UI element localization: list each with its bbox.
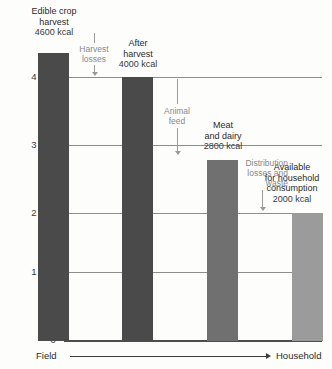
bar-value-edible-crop-harvest: 4600 kcal xyxy=(10,27,98,38)
annotation-line3: waste xyxy=(225,178,288,188)
bar-after-harvest xyxy=(122,77,153,341)
annotation-animal-feed: Animal feed xyxy=(153,106,201,126)
annotation-line1: Distribution xyxy=(225,158,288,168)
flow-label-field: Field xyxy=(36,350,57,361)
flow-label-household: Household xyxy=(276,350,321,361)
annotation-line1: Animal xyxy=(153,106,201,116)
annotation-harvest-losses: Harvest losses xyxy=(70,44,118,64)
annotation-line2: losses and xyxy=(225,168,288,178)
annotation-distribution-losses: Distribution losses and waste xyxy=(225,158,288,188)
annotation-arrow-distribution-losses xyxy=(262,190,263,208)
annotation-arrow-stem-harvest-losses xyxy=(94,33,95,43)
bar-chart: 4 000 3 000 2 000 1 000 0 Edible crop ha… xyxy=(0,0,332,369)
gridline-1000 xyxy=(64,272,322,273)
bar-label-line1: Edible crop xyxy=(10,6,98,17)
annotation-arrow-animal-feed xyxy=(177,128,178,152)
bar-available-household xyxy=(292,213,323,341)
bar-edible-crop-harvest xyxy=(38,53,69,341)
annotation-line2: feed xyxy=(153,116,201,126)
annotation-line2: losses xyxy=(70,54,118,64)
annotation-line1: Harvest xyxy=(70,44,118,54)
annotation-arrowhead-distribution-losses xyxy=(260,207,266,211)
annotation-arrowhead-animal-feed xyxy=(175,151,181,155)
gridline-2000 xyxy=(64,213,322,214)
annotation-arrowhead-harvest-losses xyxy=(92,72,98,76)
bar-value-available-household: 2000 kcal xyxy=(252,194,332,205)
flow-arrow-line xyxy=(70,356,267,357)
gridline-4000 xyxy=(64,77,322,78)
bar-label-edible-crop-harvest: Edible crop harvest 4600 kcal xyxy=(10,6,98,38)
axis-baseline xyxy=(64,340,322,342)
annotation-arrow-stem-animal-feed xyxy=(177,79,178,104)
bar-value-meat-and-dairy: 2800 kcal xyxy=(181,141,265,152)
bar-label-line2: and dairy xyxy=(181,131,265,142)
flow-arrowhead-icon xyxy=(266,353,271,359)
bar-label-line2: harvest xyxy=(10,17,98,28)
